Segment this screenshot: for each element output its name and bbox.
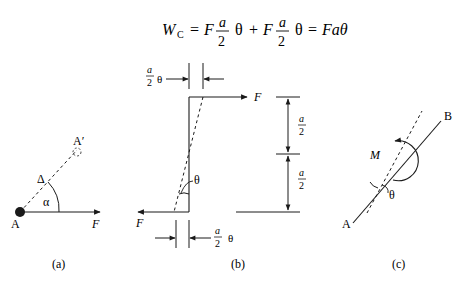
eq-theta-1: θ — [235, 21, 243, 38]
eq-frac2-den: 2 — [278, 34, 285, 49]
panel-c: θ A B M (c) — [342, 109, 452, 271]
alpha-arc — [48, 182, 59, 212]
top-dim-theta: θ — [157, 73, 162, 85]
top-dim-den: 2 — [147, 77, 152, 88]
label-A: A — [11, 217, 20, 231]
right-dim-lower-num: a — [299, 167, 304, 178]
eq-F-2: F — [262, 21, 273, 38]
moment-arc — [393, 141, 418, 181]
bottom-dim-den: 2 — [215, 238, 220, 249]
right-dim-upper-den: 2 — [299, 126, 304, 137]
eq-frac1-num: a — [219, 15, 226, 30]
eq-F-1: F — [203, 21, 214, 38]
eq-equals-1: = — [190, 21, 199, 38]
eq-plus: + — [249, 21, 258, 38]
label-theta-b: θ — [194, 173, 200, 187]
a-prime-marker — [73, 148, 81, 156]
caption-b: (b) — [231, 257, 245, 271]
caption-a: (a) — [52, 257, 65, 271]
member-AB — [353, 121, 441, 223]
bottom-dim-theta: θ — [228, 232, 233, 244]
eq-frac1-den: 2 — [218, 34, 225, 49]
label-B-c: B — [444, 109, 452, 123]
bottom-dim-num: a — [215, 225, 220, 236]
point-A-dot — [15, 207, 25, 217]
label-bottom-F: F — [135, 216, 144, 230]
eq-rhs: Faθ — [321, 21, 348, 38]
work-equation: W C = F a 2 θ + F a 2 θ = Faθ — [162, 15, 348, 49]
eq-frac2-num: a — [279, 15, 286, 30]
caption-c: (c) — [392, 257, 405, 271]
panel-b: θ F F a 2 θ a 2 θ a 2 a 2 (b) — [135, 63, 306, 271]
label-delta: Δ — [37, 172, 45, 186]
label-alpha: α — [43, 195, 50, 209]
diagram-canvas: W C = F a 2 θ + F a 2 θ = Faθ A A′ Δ α F… — [0, 0, 461, 282]
eq-equals-2: = — [308, 21, 317, 38]
eq-lhs-sub: C — [177, 29, 184, 40]
theta-leader-b — [181, 181, 193, 193]
right-dim-upper-num: a — [299, 113, 304, 124]
label-top-F: F — [253, 90, 262, 104]
right-dim-lower-den: 2 — [299, 180, 304, 191]
label-M: M — [369, 148, 381, 162]
top-dim-num: a — [147, 64, 152, 75]
label-A-prime: A′ — [73, 134, 85, 148]
eq-lhs: W — [162, 21, 177, 38]
label-A-c: A — [342, 217, 351, 231]
eq-theta-2: θ — [295, 21, 303, 38]
theta-arc-c — [370, 182, 378, 188]
label-theta-c: θ — [389, 188, 395, 202]
theta-arc-b — [179, 193, 189, 194]
label-F: F — [91, 217, 100, 231]
panel-a: A A′ Δ α F (a) — [11, 134, 100, 271]
